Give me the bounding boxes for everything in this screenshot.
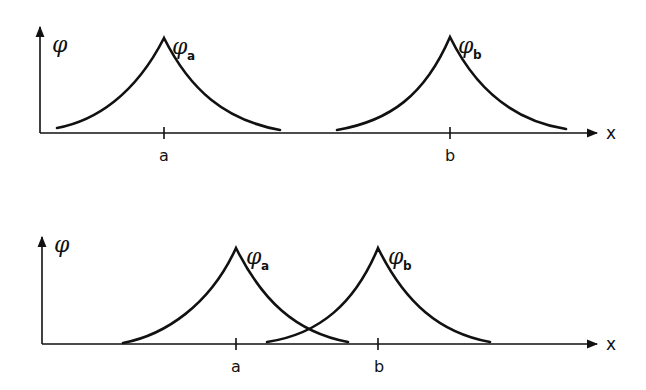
top-curve-phi-b: [337, 37, 566, 130]
svg-text:b: b: [473, 48, 482, 62]
svg-text:φ: φ: [246, 244, 262, 269]
svg-text:a: a: [187, 49, 195, 63]
bottom-label-phi-a: φ a: [246, 244, 269, 273]
top-label-phi-b: φ b: [458, 33, 482, 62]
top-label-phi-a: φ a: [172, 34, 195, 63]
svg-text:φ: φ: [388, 244, 404, 269]
bottom-tick-label-b: b: [374, 357, 384, 376]
svg-text:φ: φ: [458, 33, 474, 58]
bottom-panel: φ x a b φ a φ b: [42, 232, 616, 376]
bottom-tick-label-a: a: [231, 357, 241, 376]
svg-text:a: a: [261, 259, 269, 273]
svg-text:φ: φ: [172, 34, 188, 59]
bottom-label-phi-b: φ b: [388, 244, 412, 273]
bottom-x-axis-label: x: [606, 334, 616, 354]
top-tick-label-a: a: [159, 146, 169, 165]
bottom-curve-phi-b: [267, 248, 490, 342]
top-x-axis-label: x: [606, 123, 616, 143]
top-y-axis-label: φ: [52, 32, 68, 57]
bottom-curve-phi-a: [123, 248, 348, 343]
top-curve-phi-a: [57, 38, 280, 130]
top-tick-label-b: b: [445, 146, 455, 165]
orbital-overlap-diagram: φ x a b φ a φ b φ x a b φ a: [0, 0, 646, 390]
bottom-y-axis-label: φ: [54, 232, 70, 257]
top-panel: φ x a b φ a φ b: [40, 27, 616, 165]
svg-text:b: b: [403, 259, 412, 273]
